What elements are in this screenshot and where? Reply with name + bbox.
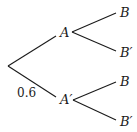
edge-probability-label: 0.6 (17, 86, 36, 100)
node-ap-b-label: B (119, 74, 130, 89)
node-ap-b-prime-label: B′ (119, 114, 133, 129)
edge-a-prime-to-b (73, 82, 116, 100)
node-a-b-prime-label: B′ (119, 45, 133, 60)
edge-a-to-b (72, 13, 116, 32)
edge-a-to-b-prime (72, 32, 116, 51)
node-a-label: A (59, 25, 69, 40)
node-a-prime-label: A′ (59, 92, 72, 107)
edge-root-to-a (8, 36, 56, 66)
node-a-b-label: B (119, 5, 130, 20)
edge-a-prime-to-b-prime (73, 100, 116, 120)
probability-tree-diagram: A A′ B B′ B B′ 0.6 (0, 0, 137, 132)
